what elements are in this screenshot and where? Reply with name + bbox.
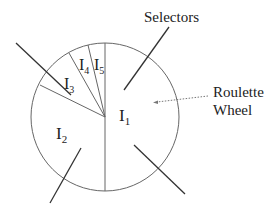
roulette-label-line2: Wheel xyxy=(213,102,252,118)
segment-label-i5: I5 xyxy=(94,56,104,76)
selectors-label: Selectors xyxy=(144,9,199,25)
roulette-label-line1: Roulette xyxy=(213,84,264,100)
selector-pointer-bottom-right xyxy=(134,145,185,194)
divider-i3-i4 xyxy=(69,53,105,117)
segment-label-i1: I1 xyxy=(119,106,130,127)
arrowhead-icon xyxy=(153,101,158,105)
roulette-diagram: I1 I2 I3 I4 I5 Selectors Roulette Wheel xyxy=(0,0,274,218)
selector-pointer-top-right xyxy=(124,27,169,90)
segment-label-i3: I3 xyxy=(64,75,74,95)
selector-pointer-bottom-left xyxy=(50,148,81,203)
roulette-wheel-pointer xyxy=(157,96,208,102)
segment-label-i2: I2 xyxy=(56,124,67,145)
